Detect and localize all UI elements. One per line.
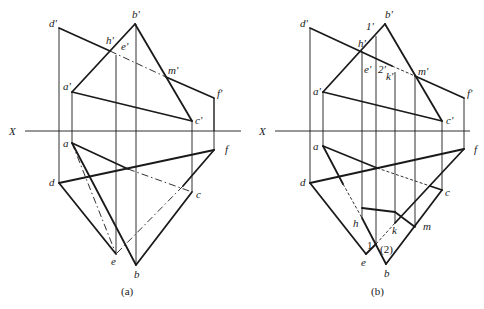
label-a-a: a (63, 137, 69, 149)
label-b-a: b (134, 268, 140, 280)
label-c-prime-a: c' (195, 114, 203, 126)
x-axis-label-b: X (258, 125, 267, 137)
label-d-a: d (49, 176, 55, 188)
label-h-b: h (353, 217, 359, 229)
label-1-b: 1 (367, 239, 373, 251)
label-f-b: f (474, 143, 479, 155)
label-b-prime-b: b' (385, 8, 394, 20)
label-c-b: c (445, 186, 450, 198)
label-d-prime-b: d' (300, 17, 309, 29)
caption-a: (a) (121, 285, 134, 298)
label-c-prime-b: c' (446, 114, 454, 126)
label-e-b: e (361, 256, 366, 268)
label-k-prime-b: k' (386, 70, 394, 82)
label-1-prime-b: 1' (366, 20, 375, 32)
label-2-b: (2) (380, 243, 393, 256)
front-plane-def-a (59, 28, 214, 131)
label-h-prime-a: h' (106, 34, 115, 46)
projection-diagram: X (0, 0, 484, 309)
top-triangle-def-a (59, 143, 214, 254)
panel-b: X (258, 8, 479, 298)
label-e-prime-a: e' (121, 40, 129, 52)
label-e-a: e (111, 255, 116, 267)
label-d-prime-a: d' (49, 17, 58, 29)
front-line-df-b (310, 28, 464, 98)
label-m-b: m (423, 220, 431, 232)
label-k-b: k (392, 224, 398, 236)
label-a-prime-a: a' (63, 80, 72, 92)
label-a-b: a (313, 140, 319, 152)
label-m-prime-b: m' (418, 65, 429, 77)
label-f-prime-a: f' (217, 87, 223, 99)
label-b-prime-a: b' (132, 8, 141, 20)
label-e-prime-b: e' (364, 63, 372, 75)
label-h-prime-b: h' (358, 37, 367, 49)
label-a-prime-b: a' (313, 85, 322, 97)
label-c-a: c (196, 188, 201, 200)
label-d-b: d (300, 176, 306, 188)
label-m-prime-a: m' (168, 64, 179, 76)
x-axis-label-a: X (8, 125, 17, 137)
label-f-prime-b: f' (467, 87, 473, 99)
panel-a: X (8, 8, 241, 298)
projector-lines-a (59, 24, 214, 265)
label-b-b: b (384, 267, 390, 279)
label-f-a: f (225, 143, 230, 155)
caption-b: (b) (371, 285, 384, 298)
top-triangle-abc-a (72, 143, 192, 265)
